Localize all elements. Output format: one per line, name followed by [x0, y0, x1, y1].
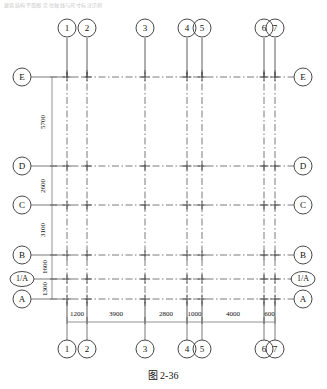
grid-bubble-right-E-label: E — [300, 73, 306, 82]
grid-bubble-top-2-label: 2 — [85, 24, 90, 33]
grid-bubble-bottom-2-label: 2 — [85, 345, 90, 354]
dimension-value-bottom: 1200 — [70, 310, 84, 318]
grid-bubble-top-1-label: 1 — [65, 24, 70, 33]
dimension-value-bottom: 2800 — [159, 310, 173, 318]
drawing-canvas: 建筑结构平面图 定位轴线与尺寸标注示例 .gl{stroke:#6b6b6b;s… — [0, 0, 327, 389]
column-marks-group — [63, 72, 280, 304]
dimension-value-bottom: 4000 — [226, 310, 240, 318]
grid-bubble-bottom-3-label: 3 — [143, 345, 148, 354]
grid-bubble-left-C-label: C — [19, 201, 25, 210]
grid-bubble-left-1-A-label: 1/A — [16, 275, 28, 283]
dimension-lines-group — [50, 77, 275, 324]
grid-bubble-right-1-A-label: 1/A — [297, 275, 309, 283]
dimension-value-bottom: 600 — [264, 310, 275, 318]
grid-bubble-left-E-label: E — [19, 73, 25, 82]
dimension-value-left: 3100 — [39, 223, 47, 237]
grid-bubble-top-6-label: 6 — [262, 24, 267, 33]
dimension-value-left: 1300 — [41, 282, 49, 296]
dimension-value-left: 1600 — [41, 260, 49, 274]
horizontal-gridlines-group — [58, 77, 292, 299]
grid-bubble-left-B-label: B — [19, 251, 25, 260]
grid-bubble-top-5-label: 5 — [200, 24, 205, 33]
grid-bubble-left-D-label: D — [19, 162, 26, 171]
grid-bubble-bottom-1-label: 1 — [65, 345, 70, 354]
grid-bubble-bottom-6-label: 6 — [262, 345, 267, 354]
grid-bubble-right-D-label: D — [300, 162, 307, 171]
grid-bubble-bottom-5-label: 5 — [200, 345, 205, 354]
grid-bubble-top-7-label: 7 — [273, 24, 278, 33]
grid-bubble-right-C-label: C — [300, 201, 306, 210]
dimension-value-bottom: 3900 — [109, 310, 123, 318]
grid-bubble-bottom-7-label: 7 — [273, 345, 278, 354]
grid-bubble-right-A-label: A — [300, 295, 307, 304]
dimension-value-bottom: 1000 — [188, 310, 202, 318]
grid-bubble-top-4-label: 4 — [185, 24, 190, 33]
dimension-value-left: 2600 — [39, 179, 47, 193]
grid-bubble-bottom-4-label: 4 — [185, 345, 190, 354]
grid-bubbles-group — [10, 19, 315, 358]
grid-bubble-left-A-label: A — [19, 295, 26, 304]
grid-bubble-top-3-label: 3 — [143, 24, 148, 33]
grid-plan-svg: .gl{stroke:#6b6b6b;stroke-width:0.9;stro… — [0, 0, 327, 389]
dimension-value-left: 5700 — [39, 115, 47, 129]
figure-caption: 图 2-36 — [148, 367, 179, 382]
grid-bubble-right-B-label: B — [300, 251, 306, 260]
